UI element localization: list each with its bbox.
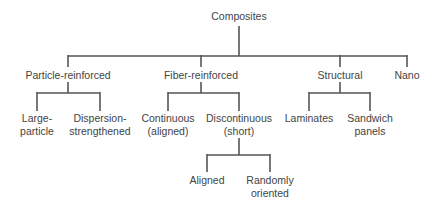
node-fiber-reinforced: Fiber-reinforced [164,69,238,82]
node-laminates: Laminates [285,112,333,125]
node-continuous-aligned: Continuous (aligned) [141,112,194,138]
node-nano: Nano [394,69,419,82]
node-particle-reinforced: Particle-reinforced [25,69,110,82]
node-randomly-oriented: Randomly oriented [246,174,293,200]
node-discontinuous-short: Discontinuous (short) [206,112,272,138]
node-aligned: Aligned [189,174,224,187]
node-structural: Structural [318,69,363,82]
node-composites: Composites [211,10,266,23]
node-sandwich-panels: Sandwich panels [347,112,393,138]
composites-classification-diagram: Composites Particle-reinforced Fiber-rei… [0,0,430,206]
node-dispersion-strengthened: Dispersion- strengthened [69,112,130,138]
node-large-particle: Large- particle [20,112,54,138]
